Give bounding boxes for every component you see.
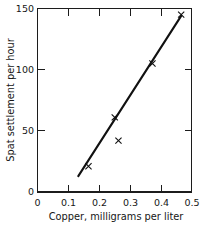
x-tick-label: 0 (34, 197, 40, 208)
y-axis-ticks-right (185, 70, 192, 131)
x-axis-ticks-top (69, 9, 162, 16)
x-tick-label: 0.4 (154, 197, 169, 208)
x-tick-labels: 0 0.1 0.2 0.3 0.4 0.5 (34, 197, 199, 208)
y-tick-label: 150 (16, 3, 34, 14)
chart-figure: 150 100 50 0 0 0.1 0.2 0.3 0.4 0.5 Coppe… (0, 0, 202, 229)
scatter-plot: 150 100 50 0 0 0.1 0.2 0.3 0.4 0.5 Coppe… (0, 0, 202, 229)
x-tick-label: 0.5 (184, 197, 199, 208)
x-axis-title: Copper, milligrams per liter (49, 211, 185, 222)
y-tick-label: 50 (22, 125, 34, 136)
y-axis-ticks (38, 9, 45, 192)
y-tick-label: 0 (28, 186, 34, 197)
x-axis-ticks (69, 185, 162, 192)
x-tick-label: 0.2 (92, 197, 107, 208)
x-tick-label: 0.3 (123, 197, 138, 208)
x-tick-label: 0.1 (61, 197, 76, 208)
y-tick-label: 100 (16, 64, 34, 75)
trend-line (78, 16, 181, 176)
y-tick-labels: 150 100 50 0 (16, 3, 34, 197)
data-point-marker (85, 163, 91, 169)
data-point-marker (115, 138, 121, 144)
y-axis-title: Spat settlement per hour (5, 37, 16, 161)
